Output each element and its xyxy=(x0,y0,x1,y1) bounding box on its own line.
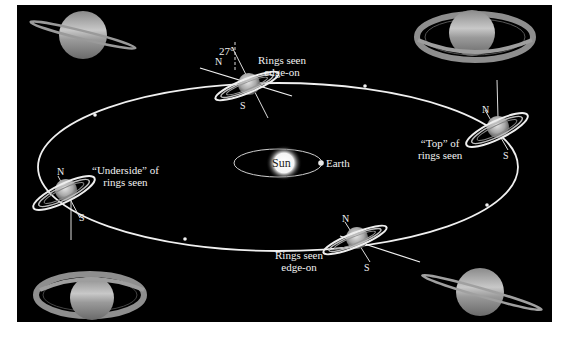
sun-label: Sun xyxy=(272,156,291,171)
label-top-edge-on: Rings seen edge-on xyxy=(258,54,306,78)
saturn-photo-top-left xyxy=(30,11,137,59)
earth xyxy=(318,160,324,166)
label-line: edge-on xyxy=(258,66,306,78)
north-label-top: N xyxy=(215,56,222,67)
label-line: rings seen xyxy=(92,176,159,188)
saturn-bottom-position xyxy=(321,221,420,262)
label-underside-of-rings: “Underside” of rings seen xyxy=(92,164,159,188)
saturn-photo-top-right xyxy=(417,10,533,60)
north-label-left: N xyxy=(57,166,64,177)
label-line: Rings seen xyxy=(275,249,323,261)
label-line: rings seen xyxy=(418,149,462,161)
earth-label: Earth xyxy=(326,157,350,169)
label-line: “Top” of xyxy=(418,137,462,149)
south-label-top: S xyxy=(240,100,246,111)
north-label-bottom: N xyxy=(342,213,349,224)
label-line: Rings seen xyxy=(258,54,306,66)
saturn-right-position xyxy=(462,80,531,153)
label-line: “Underside” of xyxy=(92,164,159,176)
saturn-photo-bottom-left xyxy=(36,274,144,320)
south-label-left: S xyxy=(79,212,85,223)
south-label-right: S xyxy=(503,150,509,161)
saturn-photo-bottom-right xyxy=(421,268,542,316)
label-bottom-edge-on: Rings seen edge-on xyxy=(275,249,323,273)
label-line: edge-on xyxy=(275,261,323,273)
south-label-bottom: S xyxy=(364,262,370,273)
north-label-right: N xyxy=(482,104,489,115)
label-top-of-rings: “Top” of rings seen xyxy=(418,137,462,161)
